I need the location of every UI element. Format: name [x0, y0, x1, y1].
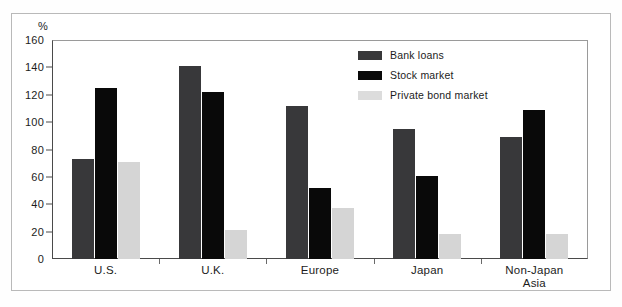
y-axis-tick-mark	[46, 94, 52, 95]
legend-swatch	[358, 51, 382, 60]
y-axis-tick-label: 40	[31, 198, 44, 210]
y-axis-tick-mark	[46, 67, 52, 68]
bar	[416, 176, 438, 259]
x-axis-group-label: U.K.	[159, 264, 266, 277]
y-axis-tick-mark	[46, 176, 52, 177]
bar	[546, 234, 568, 259]
y-axis-tick-label: 80	[31, 144, 44, 156]
bar	[225, 230, 247, 259]
x-axis-group-label: Europe	[266, 264, 373, 277]
bar	[523, 110, 545, 259]
x-axis-group-label: Japan	[374, 264, 481, 277]
legend-label: Private bond market	[390, 89, 488, 101]
y-axis-tick-label: 120	[25, 89, 44, 101]
x-axis-group-label: U.S.	[52, 264, 159, 277]
legend-label: Stock market	[390, 69, 454, 81]
legend-swatch	[358, 71, 382, 80]
y-axis-tick-label: 100	[25, 116, 44, 128]
bar	[309, 188, 331, 259]
y-axis-unit-label: %	[38, 20, 48, 32]
bar	[332, 208, 354, 259]
bar	[118, 162, 140, 259]
y-axis-tick-mark	[46, 204, 52, 205]
x-axis-group-label-line: Non-Japan	[481, 264, 588, 277]
y-axis-tick-mark	[46, 149, 52, 150]
x-axis-group-label-line: U.K.	[159, 264, 266, 277]
y-axis-tick-label: 140	[25, 61, 44, 73]
y-axis-tick-label: 0	[38, 253, 44, 265]
x-axis-group-label-line: Europe	[266, 264, 373, 277]
chart-legend: Bank loansStock marketPrivate bond marke…	[358, 47, 488, 107]
y-axis-tick-label: 20	[31, 226, 44, 238]
bar	[439, 234, 461, 259]
legend-swatch	[358, 91, 382, 100]
chart-page: % 160140120100806040200 U.S.U.K.EuropeJa…	[0, 0, 622, 307]
legend-label: Bank loans	[390, 49, 444, 61]
legend-item: Bank loans	[358, 47, 488, 63]
x-axis-group-label-line: U.S.	[52, 264, 159, 277]
y-axis-tick-label: 160	[25, 34, 44, 46]
legend-item: Private bond market	[358, 87, 488, 103]
bar	[72, 159, 94, 259]
bar-chart: % 160140120100806040200 U.S.U.K.EuropeJa…	[0, 0, 622, 307]
bar	[393, 129, 415, 259]
bar	[202, 92, 224, 259]
bar	[500, 137, 522, 259]
x-axis-group-label-line: Japan	[374, 264, 481, 277]
legend-item: Stock market	[358, 67, 488, 83]
bar	[179, 66, 201, 259]
x-axis-group-label-line: Asia	[481, 277, 588, 290]
y-axis-tick-mark	[46, 231, 52, 232]
y-axis-tick-mark	[46, 122, 52, 123]
bar	[95, 88, 117, 259]
y-axis-tick-label: 60	[31, 171, 44, 183]
bar	[286, 106, 308, 259]
x-axis-group-label: Non-JapanAsia	[481, 264, 588, 290]
